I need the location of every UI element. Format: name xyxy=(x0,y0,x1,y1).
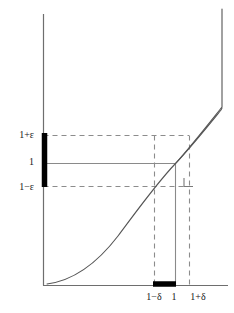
epsilon-delta-diagram: 1+ε 1 1−ε 1−δ 1 1+δ xyxy=(0,0,234,313)
y-axis-label-one: 1 xyxy=(4,156,34,167)
x-axis-label-upper: 1+δ xyxy=(181,291,215,302)
function-curve-upper xyxy=(176,9,223,164)
y-axis-label-upper: 1+ε xyxy=(4,129,34,140)
corner-tick-marker xyxy=(184,178,193,187)
function-curve xyxy=(47,108,222,284)
y-axis-label-lower: 1−ε xyxy=(4,181,34,192)
diagram-canvas xyxy=(0,0,234,313)
